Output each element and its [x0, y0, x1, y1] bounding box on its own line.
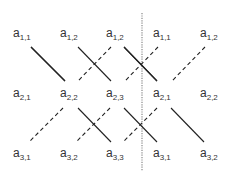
svg-text:a2,1: a2,1	[13, 86, 31, 102]
svg-text:a3,2: a3,2	[200, 146, 218, 162]
svg-text:a2,1: a2,1	[153, 86, 171, 102]
svg-text:a2,2: a2,2	[60, 86, 78, 102]
svg-text:a2,3: a2,3	[106, 86, 124, 102]
svg-text:a3,1: a3,1	[13, 146, 31, 162]
svg-text:a1,1: a1,1	[13, 26, 31, 42]
matrix-row-3: a3,1 a3,2 a3,3 a3,1 a3,2	[13, 146, 218, 162]
sarrus-diagram: a1,1 a1,2 a1,2 a1,1 a1,2 a2,1 a2,2 a2,3 …	[0, 0, 231, 176]
matrix-row-2: a2,1 a2,2 a2,3 a2,1 a2,2	[13, 86, 218, 102]
svg-text:a1,2: a1,2	[200, 26, 218, 42]
svg-text:a1,1: a1,1	[153, 26, 171, 42]
svg-text:a3,3: a3,3	[106, 146, 124, 162]
svg-text:a3,1: a3,1	[153, 146, 171, 162]
svg-text:a1,2: a1,2	[60, 26, 78, 42]
svg-text:a2,2: a2,2	[200, 86, 218, 102]
matrix-row-1: a1,1 a1,2 a1,2 a1,1 a1,2	[13, 26, 218, 42]
svg-text:a1,2: a1,2	[106, 26, 124, 42]
svg-text:a3,2: a3,2	[60, 146, 78, 162]
